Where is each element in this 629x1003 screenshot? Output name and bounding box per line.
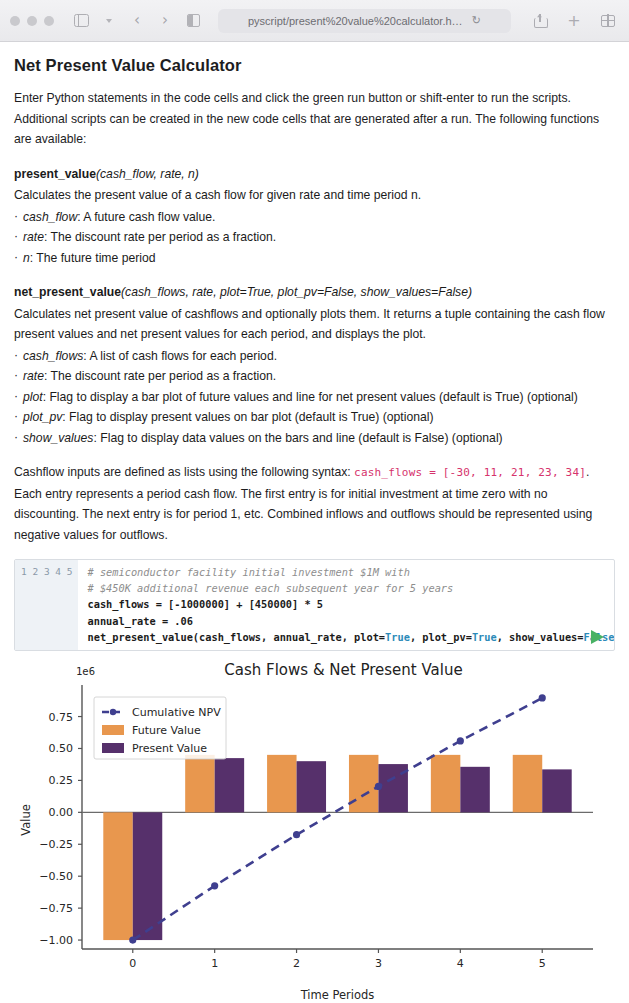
browser-toolbar: ‹ › pyscript/present%20value%20calculato… [0, 0, 629, 42]
cashflow-syntax-paragraph: Cashflow inputs are defined as lists usi… [14, 462, 615, 545]
intro-paragraph: Enter Python statements in the code cell… [14, 88, 615, 150]
list-item: plot: Flag to display a bar plot of futu… [14, 387, 615, 408]
cumulative-npv-point [539, 694, 546, 701]
y-axis-title: Value [19, 804, 33, 836]
share-button[interactable] [529, 11, 551, 31]
arg-text: : The discount rate per period as a frac… [44, 230, 276, 244]
list-item: rate: The discount rate per period as a … [14, 227, 615, 248]
x-axis-tick-label: 3 [375, 957, 382, 970]
cashflow-note-pre: Cashflow inputs are defined as lists usi… [14, 465, 354, 479]
y-axis-tick-label: −0.75 [39, 902, 73, 915]
function-signature: present_value(cash_flow, rate, n) [14, 164, 615, 185]
back-button[interactable]: ‹ [126, 11, 148, 31]
arg-text: : Flag to display data values on the bar… [93, 431, 502, 445]
function-description: Calculates the present value of a cash f… [14, 185, 615, 206]
function-description: Calculates net present value of cashflow… [14, 304, 615, 345]
sidebar-icon [74, 14, 89, 27]
minimize-window-button[interactable] [27, 16, 37, 26]
arg-text: : A future cash flow value. [77, 210, 215, 224]
function-name: net_present_value [14, 285, 121, 299]
function-arg-list: cash_flows: A list of cash flows for eac… [14, 346, 615, 449]
new-tab-button[interactable]: + [563, 11, 585, 31]
list-item: show_values: Flag to display data values… [14, 428, 615, 449]
cumulative-npv-point [375, 783, 382, 790]
sidebar-dropdown-button[interactable] [98, 11, 120, 31]
y-axis-tick-label: −0.50 [39, 870, 73, 883]
y-axis-tick-label: 0.50 [49, 742, 74, 755]
cumulative-npv-point [129, 936, 136, 943]
arg-text: : Flag to display present values on bar … [62, 410, 433, 424]
bar-future-value [349, 755, 378, 812]
reader-view-button[interactable] [182, 11, 204, 31]
chart-canvas: Cash Flows & Net Present Value1e60.750.5… [14, 657, 615, 1003]
arg-text: : The discount rate per period as a frac… [44, 369, 276, 383]
bar-future-value [431, 755, 460, 812]
legend-color-swatch [102, 743, 124, 753]
forward-button[interactable]: › [154, 11, 176, 31]
y-axis-tick-label: −0.25 [39, 838, 73, 851]
chevron-right-icon: › [162, 13, 168, 28]
address-bar[interactable]: pyscript/present%20value%20calculator.ht… [218, 9, 511, 33]
bar-future-value [513, 755, 542, 812]
legend-label: Present Value [132, 742, 207, 755]
share-icon [534, 14, 546, 28]
y-axis-tick-label: 0.00 [49, 806, 74, 819]
y-axis-tick-label: −1.00 [39, 934, 73, 947]
function-params: (cash_flow, rate, n) [96, 167, 199, 181]
reload-icon[interactable]: ↻ [472, 14, 481, 27]
code-cell[interactable]: 1 2 3 4 5 # semiconductor facility initi… [14, 559, 615, 651]
url-text: pyscript/present%20value%20calculator.ht… [248, 15, 465, 27]
arg-name: n [23, 251, 30, 265]
code-gutter: 1 2 3 4 5 [15, 560, 78, 650]
arg-text: : The future time period [30, 251, 156, 265]
arg-text: : A list of cash flows for each period. [83, 349, 277, 363]
cashflow-code-example: cash_flows = [-30, 11, 21, 23, 34] [354, 466, 586, 479]
page-title: Net Present Value Calculator [14, 56, 615, 75]
list-item: rate: The discount rate per period as a … [14, 366, 615, 387]
cumulative-npv-point [293, 831, 300, 838]
y-axis-tick-label: 0.25 [49, 774, 74, 787]
bar-future-value [185, 755, 214, 812]
share-arrow-icon [537, 14, 542, 18]
close-window-button[interactable] [10, 16, 20, 26]
play-icon [591, 630, 604, 644]
tab-overview-icon [601, 15, 615, 27]
cumulative-npv-point [457, 737, 464, 744]
arg-name: rate [23, 369, 44, 383]
arg-name: cash_flows [23, 349, 83, 363]
chevron-down-icon [106, 19, 112, 23]
arg-name: show_values [23, 431, 93, 445]
sidebar-toggle-button[interactable] [70, 11, 92, 31]
list-item: n: The future time period [14, 248, 615, 269]
npv-chart: Cash Flows & Net Present Value1e60.750.5… [14, 657, 615, 1003]
window-controls[interactable] [10, 16, 54, 26]
x-axis-tick-label: 2 [293, 957, 300, 970]
toolbar-right-actions: + [525, 11, 619, 31]
reader-icon [187, 14, 200, 27]
arg-name: cash_flow [23, 210, 77, 224]
function-params: (cash_flows, rate, plot=True, plot_pv=Fa… [121, 285, 472, 299]
function-arg-list: cash_flow: A future cash flow value. rat… [14, 207, 615, 269]
code-editor-input[interactable]: # semiconductor facility initial investm… [78, 560, 614, 650]
arg-name: plot_pv [23, 410, 62, 424]
x-axis-tick-label: 4 [457, 957, 464, 970]
run-button[interactable] [588, 628, 606, 646]
arg-text: : Flag to display a bar plot of future v… [43, 390, 578, 404]
arg-name: plot [23, 390, 43, 404]
function-signature: net_present_value(cash_flows, rate, plot… [14, 282, 615, 303]
legend-label: Future Value [132, 724, 201, 737]
function-name: present_value [14, 167, 96, 181]
maximize-window-button[interactable] [44, 16, 54, 26]
bar-present-value [297, 761, 326, 812]
page-content: Net Present Value Calculator Enter Pytho… [0, 42, 629, 1003]
y-axis-offset-label: 1e6 [76, 665, 95, 677]
legend-label: Cumulative NPV [132, 706, 221, 719]
bar-present-value [215, 758, 244, 812]
function-section-present-value: present_value(cash_flow, rate, n) Calcul… [14, 164, 615, 269]
show-all-tabs-button[interactable] [597, 11, 619, 31]
bar-present-value [460, 767, 489, 813]
chart-title: Cash Flows & Net Present Value [224, 661, 462, 679]
list-item: plot_pv: Flag to display present values … [14, 407, 615, 428]
function-section-net-present-value: net_present_value(cash_flows, rate, plot… [14, 282, 615, 448]
list-item: cash_flow: A future cash flow value. [14, 207, 615, 228]
